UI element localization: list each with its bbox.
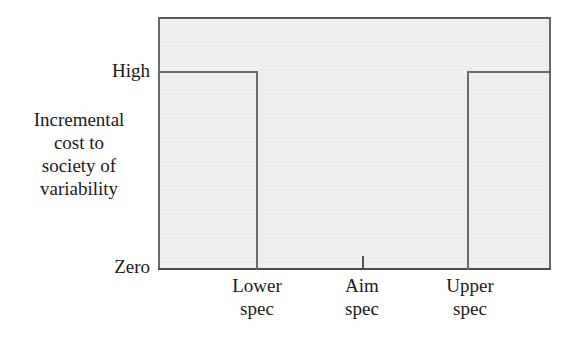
y-axis-title: Incremental cost to society of variabili…	[6, 108, 152, 200]
y-tick-label-zero: Zero	[58, 256, 150, 278]
y-tick-label-high: High	[58, 60, 150, 82]
loss-curve-segment-high-right	[467, 71, 551, 73]
aim-spec-tick-mark	[362, 256, 364, 268]
x-axis-line	[158, 268, 551, 270]
loss-curve-segment-high-left	[158, 71, 258, 73]
plot-fill-texture	[158, 17, 551, 268]
loss-curve-segment-drop-lower	[256, 71, 258, 270]
plot-area	[158, 17, 551, 268]
x-tick-label-upper-spec: Upper spec	[405, 274, 535, 320]
x-tick-label-upper-spec-line-2: spec	[405, 297, 535, 320]
y-axis-title-line-4: variability	[6, 177, 152, 200]
plot-frame-top	[158, 17, 551, 19]
x-tick-label-upper-spec-line-1: Upper	[405, 274, 535, 297]
y-axis-title-line-3: society of	[6, 154, 152, 177]
figure-container: High Zero Incremental cost to society of…	[0, 0, 573, 338]
loss-curve-segment-rise-upper	[467, 71, 469, 270]
plot-frame-right	[549, 17, 551, 270]
y-axis-title-line-2: cost to	[6, 131, 152, 154]
cropped-title-text	[0, 0, 573, 3]
y-axis-line	[158, 17, 160, 270]
y-axis-title-line-1: Incremental	[6, 108, 152, 131]
